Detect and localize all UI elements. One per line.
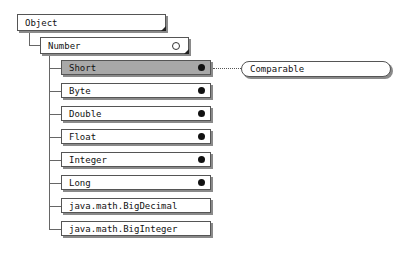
filled-dot-icon <box>198 133 205 140</box>
interface-node-comparable[interactable]: Comparable <box>241 61 391 77</box>
class-label: Number <box>48 41 81 51</box>
class-label: java.math.BigDecimal <box>69 201 177 211</box>
class-label: Double <box>69 109 102 119</box>
class-node-bigdecimal[interactable]: java.math.BigDecimal <box>61 198 211 213</box>
class-label: Long <box>69 178 91 188</box>
connector-biginteger <box>49 229 61 230</box>
connector-number-children <box>49 53 50 229</box>
class-label: Byte <box>69 86 91 96</box>
class-node-biginteger[interactable]: java.math.BigInteger <box>61 221 211 236</box>
class-label: Integer <box>69 155 107 165</box>
class-node-number[interactable]: Number <box>40 37 189 54</box>
class-label: Short <box>69 63 96 73</box>
filled-dot-icon <box>198 87 205 94</box>
connector-object-number-h <box>29 45 40 46</box>
connector-short <box>49 68 61 69</box>
connector-byte <box>49 91 61 92</box>
class-node-long[interactable]: Long <box>61 175 211 190</box>
class-label: Float <box>69 132 96 142</box>
filled-dot-icon <box>198 64 205 71</box>
connector-short-comparable <box>213 68 241 69</box>
class-node-integer[interactable]: Integer <box>61 152 211 167</box>
filled-dot-icon <box>198 110 205 117</box>
connector-integer <box>49 160 61 161</box>
connector-double <box>49 114 61 115</box>
connector-bigdecimal <box>49 206 61 207</box>
class-node-float[interactable]: Float <box>61 129 211 144</box>
hollow-circle-icon <box>172 42 180 50</box>
class-node-double[interactable]: Double <box>61 106 211 121</box>
filled-dot-icon <box>198 179 205 186</box>
class-node-short[interactable]: Short <box>61 60 211 75</box>
class-label: Object <box>25 18 58 28</box>
connector-long <box>49 183 61 184</box>
connector-object-number <box>29 31 30 45</box>
expand-corner-icon <box>184 49 189 54</box>
class-label: java.math.BigInteger <box>69 224 177 234</box>
interface-label: Comparable <box>250 64 304 74</box>
filled-dot-icon <box>198 156 205 163</box>
class-node-object[interactable]: Object <box>17 14 166 31</box>
connector-float <box>49 137 61 138</box>
expand-corner-icon <box>161 26 166 31</box>
class-node-byte[interactable]: Byte <box>61 83 211 98</box>
